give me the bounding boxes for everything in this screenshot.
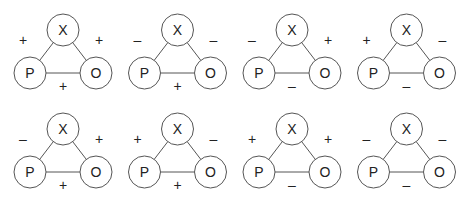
node-x: X xyxy=(162,113,194,145)
node-o: O xyxy=(80,57,112,89)
edge-ox xyxy=(302,43,316,61)
node-o: O xyxy=(195,57,227,89)
node-label: X xyxy=(402,121,412,137)
node-label: P xyxy=(369,65,378,81)
sign-po: – xyxy=(288,78,296,94)
edge-px xyxy=(40,43,54,61)
sign-px: + xyxy=(19,32,27,48)
node-o: O xyxy=(309,57,341,89)
edge-px xyxy=(269,43,283,61)
node-label: O xyxy=(205,164,216,180)
node-p: P xyxy=(14,156,46,188)
triad-5: XPO–++ xyxy=(14,113,112,193)
node-p: P xyxy=(129,156,161,188)
sign-po: + xyxy=(59,177,67,193)
edge-ox xyxy=(73,142,87,160)
triad-4: XPO+–– xyxy=(358,14,456,94)
edge-ox xyxy=(416,142,430,160)
node-label: O xyxy=(320,65,331,81)
edge-px xyxy=(269,142,283,160)
node-label: X xyxy=(287,121,297,137)
node-p: P xyxy=(243,156,275,188)
node-label: X xyxy=(58,121,68,137)
node-label: X xyxy=(58,22,68,38)
edge-px xyxy=(154,43,168,61)
triad-8: XPO––– xyxy=(358,113,456,193)
sign-ox: + xyxy=(95,131,103,147)
sign-px: – xyxy=(134,32,142,48)
node-o: O xyxy=(80,156,112,188)
edge-ox xyxy=(73,43,87,61)
node-label: X xyxy=(173,121,183,137)
node-x: X xyxy=(391,14,423,46)
node-x: X xyxy=(391,113,423,145)
node-x: X xyxy=(162,14,194,46)
node-p: P xyxy=(129,57,161,89)
node-p: P xyxy=(14,57,46,89)
node-label: O xyxy=(434,65,445,81)
node-label: P xyxy=(369,164,378,180)
node-label: P xyxy=(25,164,34,180)
sign-po: – xyxy=(403,177,411,193)
sign-po: + xyxy=(59,78,67,94)
sign-ox: – xyxy=(210,32,218,48)
node-label: P xyxy=(140,65,149,81)
sign-px: + xyxy=(248,131,256,147)
sign-ox: – xyxy=(210,131,218,147)
node-o: O xyxy=(309,156,341,188)
node-p: P xyxy=(243,57,275,89)
node-label: O xyxy=(91,65,102,81)
node-label: O xyxy=(205,65,216,81)
sign-ox: – xyxy=(439,32,447,48)
sign-po: – xyxy=(288,177,296,193)
triad-2: XPO––+ xyxy=(129,14,227,94)
triad-7: XPO++– xyxy=(243,113,341,193)
node-x: X xyxy=(276,113,308,145)
sign-px: – xyxy=(248,32,256,48)
node-label: X xyxy=(402,22,412,38)
sign-px: – xyxy=(19,131,27,147)
node-x: X xyxy=(276,14,308,46)
node-label: O xyxy=(434,164,445,180)
sign-po: + xyxy=(173,78,181,94)
sign-px: – xyxy=(363,131,371,147)
edge-ox xyxy=(187,43,201,61)
triad-3: XPO–+– xyxy=(243,14,341,94)
node-label: O xyxy=(91,164,102,180)
edge-ox xyxy=(187,142,201,160)
triad-6: XPO+–+ xyxy=(129,113,227,193)
sign-px: + xyxy=(362,32,370,48)
node-label: X xyxy=(173,22,183,38)
sign-ox: – xyxy=(439,131,447,147)
node-label: P xyxy=(254,65,263,81)
node-o: O xyxy=(424,156,456,188)
sign-po: – xyxy=(403,78,411,94)
node-x: X xyxy=(47,14,79,46)
sign-px: + xyxy=(133,131,141,147)
node-p: P xyxy=(358,156,390,188)
node-o: O xyxy=(195,156,227,188)
node-x: X xyxy=(47,113,79,145)
sign-ox: + xyxy=(324,32,332,48)
node-label: P xyxy=(25,65,34,81)
sign-ox: + xyxy=(95,32,103,48)
edge-px xyxy=(383,43,397,61)
edge-px xyxy=(40,142,54,160)
edge-ox xyxy=(302,142,316,160)
sign-ox: + xyxy=(324,131,332,147)
node-p: P xyxy=(358,57,390,89)
triads-diagram: XPO+++XPO––+XPO–+–XPO+––XPO–++XPO+–+XPO+… xyxy=(0,0,468,206)
triad-1: XPO+++ xyxy=(14,14,112,94)
sign-po: + xyxy=(173,177,181,193)
edge-ox xyxy=(416,43,430,61)
edge-px xyxy=(383,142,397,160)
node-o: O xyxy=(424,57,456,89)
node-label: P xyxy=(254,164,263,180)
node-label: X xyxy=(287,22,297,38)
node-label: P xyxy=(140,164,149,180)
node-label: O xyxy=(320,164,331,180)
edge-px xyxy=(154,142,168,160)
